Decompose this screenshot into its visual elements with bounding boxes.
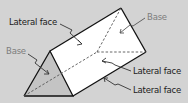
base-label-left: Base	[6, 47, 26, 56]
prism-diagram: Lateral face Base Base Lateral face Late…	[0, 0, 188, 103]
base-label-right: Base	[147, 13, 167, 22]
lateral-face-label-mid: Lateral face	[133, 67, 181, 76]
lateral-face-label-bottom: Lateral face	[133, 86, 181, 95]
lateral-face-label-top: Lateral face	[9, 18, 57, 27]
